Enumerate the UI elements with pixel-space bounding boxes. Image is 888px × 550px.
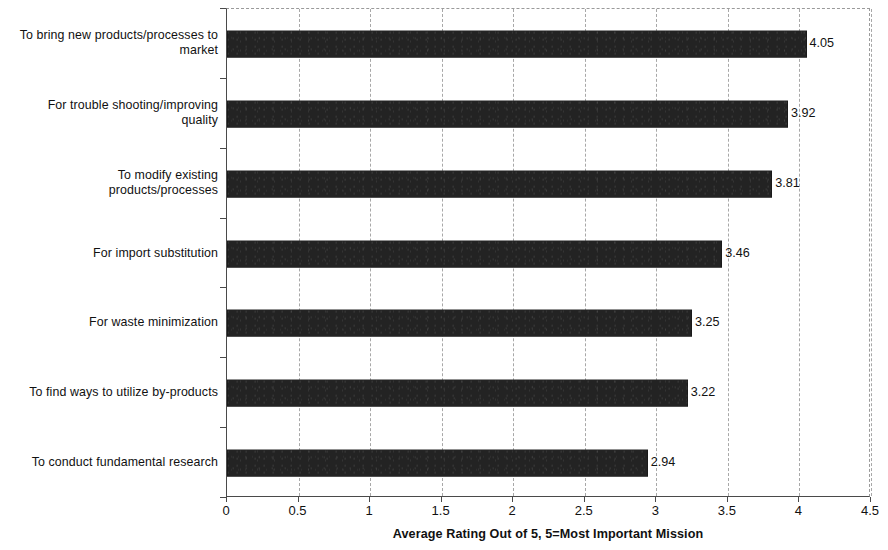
x-axis-tick [870,497,871,502]
x-axis-tick-label: 2.5 [575,503,593,519]
y-axis-tick [220,148,226,149]
x-axis-tick-label: 3.5 [718,503,736,519]
x-axis-tick [298,497,299,502]
x-axis-tick [226,497,227,502]
x-axis-tick [441,497,442,502]
bar-value-label: 3.81 [771,176,800,189]
x-axis-tick [798,497,799,502]
bar-value-label: 2.94 [647,456,676,469]
y-axis-tick [220,218,226,219]
bar-series [227,9,869,496]
bar-value-label: 3.92 [787,106,816,119]
plot-area [226,8,870,497]
category-label: To find ways to utilize by-products [0,385,218,400]
y-axis-tick [220,78,226,79]
y-axis-tick [220,8,226,9]
x-axis-tick [655,497,656,502]
bar [227,450,648,477]
x-axis-tick [369,497,370,502]
x-axis-tick-label: 4.5 [861,503,879,519]
bar [227,30,807,57]
x-axis-tick-label: 0.5 [289,503,307,519]
category-axis-labels: To bring new products/processes to marke… [0,8,218,497]
bar [227,240,722,267]
y-axis-tick [220,287,226,288]
bar-value-label: 3.46 [721,246,750,259]
category-label: To bring new products/processes to marke… [0,28,218,58]
category-label: To conduct fundamental research [0,455,218,470]
y-axis-tick [220,357,226,358]
bar-value-label: 4.05 [806,36,835,49]
x-axis-tick [727,497,728,502]
x-axis-tick-label: 3 [652,503,659,519]
bar-value-label: 3.22 [687,386,716,399]
x-axis-tick [584,497,585,502]
x-axis-tick-label: 1 [365,503,372,519]
category-label: For import substitution [0,245,218,260]
category-label: For trouble shooting/improving quality [0,98,218,128]
x-axis-title: Average Rating Out of 5, 5=Most Importan… [226,527,870,541]
x-axis-tick-label: 0 [222,503,229,519]
bar-value-label: 3.25 [691,316,720,329]
horizontal-bar-chart: To bring new products/processes to marke… [0,0,888,550]
bar [227,170,772,197]
category-label: For waste minimization [0,315,218,330]
x-axis-tick [512,497,513,502]
x-axis-tick-label: 1.5 [432,503,450,519]
bar [227,100,788,127]
category-label: To modify existing products/processes [0,168,218,198]
y-axis-tick [220,427,226,428]
bar [227,380,688,407]
bar [227,310,692,337]
x-axis-tick-label: 4 [795,503,802,519]
x-axis-tick-label: 2 [509,503,516,519]
gridline [871,9,872,496]
